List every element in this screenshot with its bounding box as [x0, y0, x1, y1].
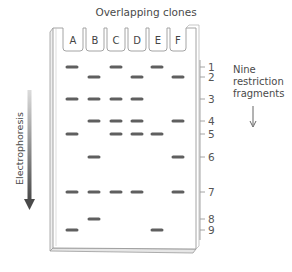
band-f-4: [172, 119, 185, 122]
band-b-7: [88, 190, 101, 193]
fragment-ticks: 123456789: [200, 61, 215, 236]
band-c-3: [110, 97, 123, 100]
band-f-2: [172, 75, 185, 78]
lane-label-e: E: [155, 35, 161, 46]
annotation-line-3: fragments: [233, 88, 284, 100]
band-d-5: [131, 132, 144, 135]
electrophoresis-arrow-icon: [24, 199, 35, 210]
fragment-number-6: 6: [208, 151, 215, 163]
band-d-2: [131, 75, 144, 78]
band-a-7: [66, 190, 79, 193]
electrophoresis-label: Electrophoresis: [14, 104, 25, 194]
fragment-number-3: 3: [208, 93, 215, 105]
band-b-2: [88, 75, 101, 78]
band-b-8: [88, 217, 101, 220]
band-e-1: [151, 65, 164, 68]
band-f-7: [172, 190, 185, 193]
lane-label-d: D: [133, 35, 141, 46]
fragment-number-5: 5: [208, 128, 215, 140]
band-d-7: [131, 190, 144, 193]
band-c-4: [110, 119, 123, 122]
band-c-5: [110, 132, 123, 135]
annotation-line-1: Nine: [233, 64, 284, 76]
band-d-4: [131, 119, 144, 122]
band-a-3: [66, 97, 79, 100]
gel-diagram: A B C D E F 123456789: [0, 0, 292, 272]
fragment-number-7: 7: [208, 186, 215, 198]
band-a-5: [66, 132, 79, 135]
band-a-9: [66, 228, 79, 231]
band-a-1: [66, 65, 79, 68]
lane-label-c: C: [113, 35, 120, 46]
band-f-6: [172, 155, 185, 158]
lane-label-b: B: [92, 35, 99, 46]
annotation-line-2: restriction: [233, 76, 284, 88]
fragment-number-4: 4: [208, 115, 215, 127]
band-b-3: [88, 97, 101, 100]
fragment-number-9: 9: [208, 224, 215, 236]
band-e-9: [151, 228, 164, 231]
lane-label-f: F: [175, 35, 181, 46]
electrophoresis-arrow-shaft: [28, 90, 32, 200]
band-d-3: [131, 97, 144, 100]
band-c-1: [110, 65, 123, 68]
band-b-4: [88, 119, 101, 122]
gel-body: [53, 28, 196, 249]
fragment-number-2: 2: [208, 71, 215, 83]
lane-label-a: A: [70, 35, 77, 46]
band-e-5: [151, 132, 164, 135]
fragments-annotation: Nine restriction fragments: [233, 64, 284, 100]
band-b-6: [88, 155, 101, 158]
band-c-7: [110, 190, 123, 193]
